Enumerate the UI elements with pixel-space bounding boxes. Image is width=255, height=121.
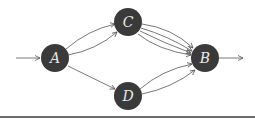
edge-a-to-d: [68, 66, 115, 89]
node-a-label: A: [48, 50, 60, 66]
edges-c-to-b: [138, 24, 193, 55]
edges-d-to-b: [140, 64, 195, 94]
node-c-label: C: [123, 14, 134, 30]
bottom-divider: [0, 116, 255, 118]
node-b: B: [191, 44, 219, 72]
edges-a-to-c: [66, 24, 117, 55]
multigraph-diagram: A C D B: [0, 0, 255, 121]
node-d-label: D: [121, 88, 133, 104]
node-b-label: B: [199, 50, 210, 66]
node-c: C: [114, 8, 142, 36]
node-d: D: [114, 82, 142, 110]
node-a: A: [41, 44, 69, 72]
